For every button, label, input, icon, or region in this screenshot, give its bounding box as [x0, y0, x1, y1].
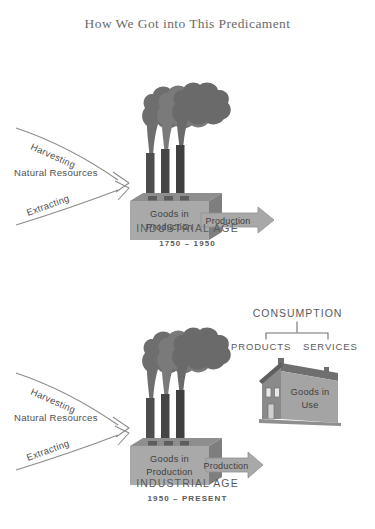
house-label-line2: Use [301, 400, 318, 410]
factory-vent-2 [164, 441, 173, 446]
production-arrow-label: Production [203, 461, 248, 471]
smoke-plumes-top [142, 83, 231, 162]
smokestacks-bottom [146, 390, 185, 445]
input-arrows-bottom: Harvesting Natural Resources Extracting [14, 373, 129, 470]
smoke-plume-3 [172, 328, 231, 399]
factory-label-line1: Goods in [150, 209, 189, 219]
smokestacks-top [146, 145, 185, 200]
page-title: How We Got into This Predicament [0, 16, 375, 32]
diagram-top-graphic: Goods in Production Harvesting Natural R… [0, 50, 375, 265]
diagram-industrial-age-early: Goods in Production Harvesting Natural R… [0, 50, 375, 265]
diagram-bottom-graphic: Goods in Production Harvesting Natural R… [0, 295, 375, 525]
factory-front-face [130, 201, 209, 240]
input-arrows-top: Harvesting Natural Resources Extracting [14, 128, 129, 225]
diagram-industrial-age-modern: Goods in Production Harvesting Natural R… [0, 295, 375, 525]
production-arrow-label: Production [205, 216, 250, 226]
natural-resources-label: Natural Resources [14, 167, 98, 178]
factory-front-face [130, 446, 209, 485]
factory-vent-1 [148, 441, 157, 446]
factory-vent-3 [180, 196, 189, 201]
harvesting-arrowhead [113, 417, 129, 437]
smokestack-2 [161, 394, 170, 445]
smokestack-3 [176, 145, 185, 200]
consumption-title: CONSUMPTION [110, 307, 375, 319]
extracting-label: Extracting [25, 192, 71, 218]
house-window-2 [275, 388, 280, 397]
factory-top-face [130, 438, 222, 446]
factory-label-line1: Goods in [150, 454, 189, 464]
factory-vent-1 [148, 196, 157, 201]
house-label-line1: Goods in [291, 387, 330, 397]
bracket-bar [266, 333, 328, 339]
consumption-bracket [266, 322, 328, 339]
smokestack-3 [176, 390, 185, 445]
house-goods-in-use: Goods in Use [259, 358, 341, 426]
smoke-plume-3 [172, 83, 231, 154]
smokestack-1 [146, 398, 155, 445]
harvesting-label: Harvesting [29, 386, 77, 415]
factory-label-line2: Production [146, 222, 192, 232]
consumption-branch-products: PRODUCTS [231, 341, 291, 352]
house-window-1 [266, 388, 271, 397]
factory-vent-3 [180, 441, 189, 446]
factory-top-face [130, 193, 222, 201]
harvesting-label: Harvesting [29, 141, 77, 170]
smoke-plumes-bottom [142, 328, 231, 407]
smokestack-2 [161, 149, 170, 200]
factory-vent-2 [164, 196, 173, 201]
house-door [268, 404, 274, 419]
factory-label-line2: Production [146, 467, 192, 477]
consumption-branch-services: SERVICES [303, 341, 358, 352]
smokestack-1 [146, 153, 155, 200]
diagram-page: How We Got into This Predicament [0, 0, 375, 529]
harvesting-arrowhead [113, 172, 129, 192]
extracting-label: Extracting [25, 437, 71, 463]
natural-resources-label: Natural Resources [14, 412, 98, 423]
